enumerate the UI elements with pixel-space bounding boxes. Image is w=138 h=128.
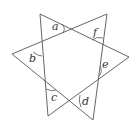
edge-topleft-bottomleft bbox=[40, 14, 48, 116]
label-a: a bbox=[52, 20, 59, 33]
edge-left-bottomright bbox=[12, 54, 93, 120]
label-c: c bbox=[51, 91, 57, 104]
label-d: d bbox=[82, 95, 89, 108]
label-b: b bbox=[29, 52, 36, 65]
star-diagram: a f b e c d bbox=[0, 0, 138, 128]
angle-arc-d bbox=[79, 95, 81, 107]
star-edges bbox=[12, 14, 129, 120]
label-e: e bbox=[102, 58, 109, 71]
angle-labels: a f b e c d bbox=[29, 20, 109, 108]
